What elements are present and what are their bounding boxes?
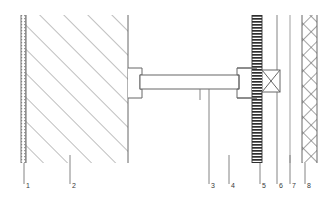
- component-8-insulation-panel: [302, 15, 317, 163]
- beam-web: [140, 75, 239, 89]
- construction-detail-drawing: 1 2 3 4 5 6 7 8: [0, 0, 327, 201]
- component-2-masonry-wall: [26, 15, 128, 163]
- cross-braced-connector: [252, 70, 280, 92]
- callout-number-1[interactable]: 1: [26, 182, 30, 189]
- callout-number-8[interactable]: 8: [307, 182, 311, 189]
- detail-drawing-canvas: [0, 0, 327, 201]
- callout-number-2[interactable]: 2: [72, 182, 76, 189]
- callout-number-6[interactable]: 6: [279, 182, 283, 189]
- callout-number-5[interactable]: 5: [262, 182, 266, 189]
- component-1-finish-layer: [21, 15, 26, 163]
- callout-number-3[interactable]: 3: [211, 182, 215, 189]
- callout-number-7[interactable]: 7: [292, 182, 296, 189]
- callout-number-4[interactable]: 4: [231, 182, 235, 189]
